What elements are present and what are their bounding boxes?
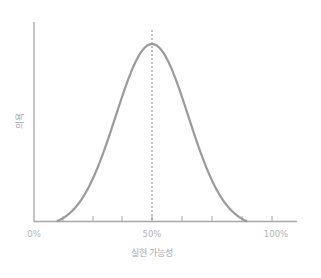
x-tick-label-0: 0%: [27, 229, 41, 239]
y-axis-title: 의욕: [15, 113, 25, 129]
x-tick-label-50: 50%: [143, 229, 162, 239]
x-tick-label-100: 100%: [264, 229, 288, 239]
feasibility-motivation-chart: 0% 50% 100% 실현 가능성 의욕: [0, 0, 321, 278]
x-axis-title: 실현 가능성: [131, 248, 174, 258]
